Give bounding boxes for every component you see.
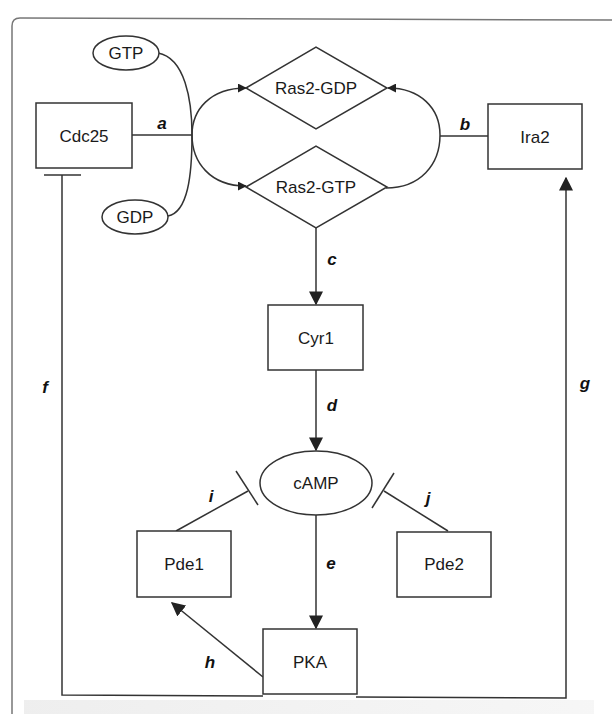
edge-gdp-output [168,135,192,216]
edge-loop-left-upper [192,88,246,135]
node-pka: PKA [263,629,357,694]
edge-label-e: e [326,554,335,573]
edge-loop-right [386,88,440,188]
node-cyr1: Cyr1 [268,305,363,370]
node-gtp: GTP [93,36,159,70]
node-cyr1-label: Cyr1 [298,329,334,348]
node-ras2-gtp-label: Ras2-GTP [276,178,356,197]
edge-label-h: h [205,653,215,672]
node-ras2-gdp: Ras2-GDP [246,47,387,129]
node-gdp-label: GDP [117,208,154,227]
node-pde2-label: Pde2 [424,555,464,574]
node-pde1: Pde1 [137,531,231,597]
node-pde2: Pde2 [397,532,491,597]
pathway-diagram: GTP GDP Cdc25 Ras2-GDP Ras2-GTP Ira2 Cyr… [0,0,612,714]
node-cdc25: Cdc25 [36,103,132,168]
edge-label-d: d [327,396,338,415]
edge-g [356,178,566,698]
edge-label-a: a [157,114,166,133]
node-camp: cAMP [260,451,372,515]
edge-label-j: j [424,489,432,508]
node-pka-label: PKA [293,653,328,672]
edge-loop-left-lower [192,135,246,186]
edge-j [384,491,448,531]
node-cdc25-label: Cdc25 [59,127,108,146]
edge-label-g: g [579,374,591,393]
node-ira2-label: Ira2 [520,128,549,147]
edge-label-b: b [460,115,470,134]
edge-label-i: i [209,487,215,506]
edge-j-bar [372,473,394,508]
node-camp-label: cAMP [293,474,338,493]
node-ras2-gdp-label: Ras2-GDP [275,79,357,98]
edge-i-bar [236,471,258,505]
cropped-caption-strip [24,700,594,714]
node-gdp: GDP [102,200,168,234]
node-ira2: Ira2 [488,104,582,169]
edge-label-f: f [42,378,50,397]
node-gtp-label: GTP [109,44,144,63]
edge-label-c: c [327,250,337,269]
edge-h [172,603,263,677]
node-ras2-gtp: Ras2-GTP [246,146,387,228]
node-pde1-label: Pde1 [164,555,204,574]
edge-f [62,175,263,696]
